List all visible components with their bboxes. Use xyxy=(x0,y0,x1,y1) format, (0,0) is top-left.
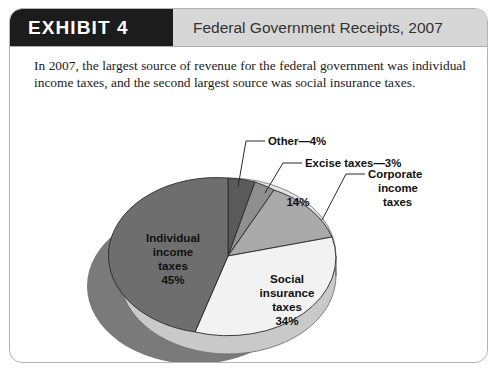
exhibit-card: EXHIBIT 4 Federal Government Receipts, 2… xyxy=(9,8,488,363)
svg-text:Individual: Individual xyxy=(146,231,200,244)
callout-corporate: Corporate income taxes xyxy=(368,168,422,208)
callout-other: Other—4% xyxy=(268,135,326,147)
svg-text:income: income xyxy=(153,245,194,258)
svg-text:taxes: taxes xyxy=(272,300,302,313)
exhibit-title: Federal Government Receipts, 2007 xyxy=(193,9,443,46)
svg-text:Corporate: Corporate xyxy=(368,168,422,180)
svg-text:Social: Social xyxy=(270,272,304,285)
exhibit-number-band: EXHIBIT 4 xyxy=(10,9,173,46)
label-corporate-value: 14% xyxy=(286,195,309,208)
svg-text:taxes: taxes xyxy=(383,196,412,208)
svg-text:income: income xyxy=(378,182,418,194)
svg-text:45%: 45% xyxy=(161,273,184,286)
svg-text:insurance: insurance xyxy=(260,286,315,299)
svg-text:taxes: taxes xyxy=(158,259,188,272)
pie-chart-svg: Other—4% Excise taxes—3% Corporate incom… xyxy=(10,101,487,362)
exhibit-number-label: EXHIBIT 4 xyxy=(10,17,129,39)
leader-line-corporate xyxy=(322,174,365,220)
exhibit-header: EXHIBIT 4 Federal Government Receipts, 2… xyxy=(10,9,488,47)
svg-text:34%: 34% xyxy=(275,314,298,327)
pie-chart: Other—4% Excise taxes—3% Corporate incom… xyxy=(10,101,487,362)
exhibit-caption: In 2007, the largest source of revenue f… xyxy=(34,57,466,91)
